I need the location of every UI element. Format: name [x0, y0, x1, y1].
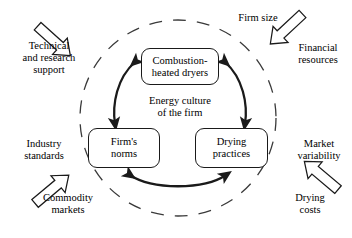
node-label: Drying practices [213, 136, 250, 160]
node-firms-norms: Firm's norms [88, 128, 160, 168]
external-label-market-variability: Market variability [288, 138, 350, 162]
node-label: Firm's norms [111, 136, 137, 160]
external-label-technical-and-research-support: Technical and research support [6, 40, 92, 76]
center-label-energy-culture: Energy culture of the firm [130, 95, 230, 119]
external-label-industry-standards: Industry standards [8, 138, 80, 162]
external-label-drying-costs: Drying costs [285, 192, 335, 216]
external-label-firm-size: Firm size [228, 12, 288, 24]
node-combustion-heated-dryers: Combustion- heated dryers [141, 48, 219, 85]
link-norms-practices [130, 175, 226, 186]
energy-culture-diagram: Combustion- heated dryers Firm's norms D… [0, 0, 352, 238]
external-label-commodity-markets: Commodity markets [28, 192, 108, 216]
external-label-financial-resources: Financial resources [285, 42, 351, 66]
node-label: Combustion- heated dryers [152, 55, 208, 79]
node-drying-practices: Drying practices [195, 128, 268, 168]
